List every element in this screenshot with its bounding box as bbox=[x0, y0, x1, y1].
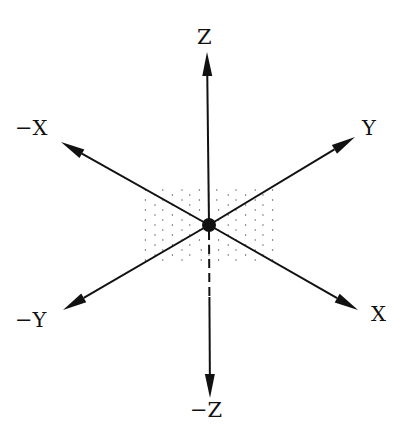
plane-dot bbox=[262, 214, 263, 215]
plane-dot bbox=[235, 199, 236, 200]
plane-dot bbox=[235, 219, 236, 220]
axis-label-neg-x: −X bbox=[15, 118, 48, 139]
plane-dot bbox=[245, 254, 246, 255]
plane-dot bbox=[145, 219, 146, 220]
plane-dot bbox=[154, 244, 155, 245]
plane-dot bbox=[172, 194, 173, 195]
arrowhead-icon bbox=[332, 137, 355, 154]
plane-dot bbox=[272, 219, 273, 220]
plane-dot bbox=[172, 234, 173, 235]
plane-dot bbox=[218, 209, 219, 210]
plane-dot bbox=[189, 194, 190, 195]
plane-dot bbox=[189, 244, 190, 245]
plane-dot bbox=[235, 189, 236, 190]
plane-dot bbox=[245, 204, 246, 205]
axis-label-y: Y bbox=[362, 118, 376, 139]
plane-dot bbox=[216, 199, 217, 200]
plane-dot bbox=[245, 234, 246, 235]
axis-y-pos-line bbox=[209, 149, 334, 225]
plane-dot bbox=[189, 224, 190, 225]
plane-dot bbox=[255, 239, 256, 240]
plane-dot bbox=[154, 214, 155, 215]
axis-x-neg-line bbox=[82, 154, 209, 225]
plane-dot bbox=[228, 254, 229, 255]
arrowhead-icon bbox=[61, 142, 84, 158]
plane-dot bbox=[181, 189, 182, 190]
plane-dot bbox=[272, 249, 273, 250]
axis-z-pos-line bbox=[207, 76, 209, 225]
arrowhead-icon bbox=[335, 294, 358, 310]
plane-dot bbox=[216, 189, 217, 190]
plane-dot bbox=[255, 219, 256, 220]
plane-dot bbox=[162, 189, 163, 190]
plane-dot bbox=[218, 249, 219, 250]
plane-dot bbox=[145, 229, 146, 230]
plane-dot bbox=[189, 204, 190, 205]
plane-dot bbox=[245, 224, 246, 225]
plane-dot bbox=[154, 204, 155, 205]
plane-dot bbox=[228, 194, 229, 195]
axis-label-z: Z bbox=[197, 27, 212, 48]
plane-dot bbox=[218, 259, 219, 260]
plane-dot bbox=[245, 214, 246, 215]
plane-dot bbox=[228, 224, 229, 225]
plane-dot bbox=[145, 239, 146, 240]
plane-dot bbox=[272, 189, 273, 190]
plane-dot bbox=[199, 209, 200, 210]
plane-dot bbox=[201, 259, 202, 260]
plane-dot bbox=[162, 229, 163, 230]
axis-label-neg-z: −Z bbox=[190, 400, 222, 421]
plane-dot bbox=[228, 244, 229, 245]
plane-dot bbox=[154, 234, 155, 235]
plane-dot bbox=[235, 229, 236, 230]
plane-dot bbox=[201, 249, 202, 250]
plane-dot bbox=[255, 259, 256, 260]
axis-label-neg-y: −Y bbox=[15, 310, 46, 331]
plane-dot bbox=[181, 249, 182, 250]
axes-canvas bbox=[0, 0, 393, 435]
plane-dot bbox=[235, 259, 236, 260]
plane-dot bbox=[255, 209, 256, 210]
plane-dot bbox=[255, 189, 256, 190]
plane-dot bbox=[172, 214, 173, 215]
plane-dot bbox=[145, 199, 146, 200]
axis-label-x: X bbox=[371, 304, 386, 325]
plane-dot bbox=[181, 219, 182, 220]
plane-dot bbox=[272, 199, 273, 200]
plane-dot bbox=[181, 229, 182, 230]
arrowhead-icon bbox=[205, 374, 215, 398]
axes-lines bbox=[61, 52, 358, 398]
plane-dot bbox=[272, 229, 273, 230]
axis-y-neg-line bbox=[84, 225, 209, 298]
plane-dot bbox=[235, 249, 236, 250]
plane-dot bbox=[245, 194, 246, 195]
axis-x-pos-line bbox=[209, 225, 337, 298]
plane-dot bbox=[145, 209, 146, 210]
plane-dot bbox=[255, 199, 256, 200]
arrowhead-icon bbox=[63, 294, 86, 310]
plane-dot bbox=[255, 229, 256, 230]
plane-dot bbox=[181, 199, 182, 200]
arrowhead-icon bbox=[202, 52, 212, 76]
plane-dot bbox=[162, 239, 163, 240]
plane-dot bbox=[189, 254, 190, 255]
plane-dot bbox=[181, 259, 182, 260]
plane-dot bbox=[262, 204, 263, 205]
plane-dot bbox=[154, 224, 155, 225]
plane-dot bbox=[172, 254, 173, 255]
plane-dot bbox=[262, 244, 263, 245]
plane-dot bbox=[199, 189, 200, 190]
plane-dot bbox=[199, 239, 200, 240]
plane-dot bbox=[218, 239, 219, 240]
plane-dot bbox=[262, 194, 263, 195]
plane-dot bbox=[228, 204, 229, 205]
plane-dot bbox=[199, 199, 200, 200]
plane-dot bbox=[262, 234, 263, 235]
axes-diagram: Z −Z −X X Y −Y bbox=[0, 0, 393, 435]
plane-dot bbox=[145, 249, 146, 250]
plane-dot bbox=[208, 254, 209, 255]
plane-dot bbox=[162, 209, 163, 210]
origin-dot bbox=[202, 218, 216, 232]
plane-dot bbox=[162, 259, 163, 260]
plane-dot bbox=[172, 224, 173, 225]
